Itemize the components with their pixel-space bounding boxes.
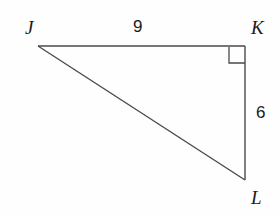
- side-jl-line: [38, 46, 245, 180]
- side-length-label-jk: 9: [133, 18, 142, 35]
- side-length-label-kl: 6: [256, 104, 265, 121]
- vertex-label-j: J: [25, 18, 33, 37]
- vertex-label-k: K: [251, 18, 264, 37]
- right-angle-marker-icon: [229, 47, 245, 63]
- geometry-figure: J K L 9 6: [0, 0, 280, 216]
- vertex-label-l: L: [251, 188, 262, 207]
